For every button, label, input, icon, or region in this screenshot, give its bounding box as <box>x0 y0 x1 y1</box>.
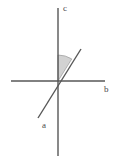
angle-diagram: c b a <box>0 0 119 160</box>
oblique-line-label: a <box>42 120 46 130</box>
horizontal-axis-label: b <box>104 84 109 94</box>
diagram-canvas: c b a <box>0 0 119 160</box>
vertical-axis-label: c <box>63 3 67 13</box>
